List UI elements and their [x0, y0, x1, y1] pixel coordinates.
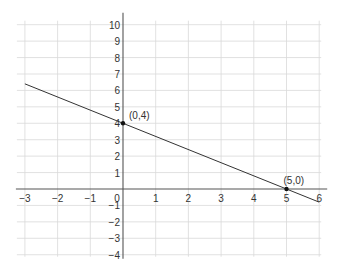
- grid-lines: [17, 21, 321, 257]
- x-tick-label: 2: [186, 193, 192, 204]
- y-tick-label: −3: [109, 233, 121, 244]
- labeled-points: (0,4)(5,0): [121, 110, 304, 191]
- y-tick-label: 2: [114, 151, 120, 162]
- x-tick-label: 6: [316, 193, 322, 204]
- coordinate-graph: −3−2−10123456−4−3−2−112345678910 (0,4)(5…: [0, 0, 344, 275]
- y-tick-label: 10: [109, 20, 121, 31]
- line-series: [25, 84, 319, 202]
- x-tick-label: 4: [251, 193, 257, 204]
- y-tick-label: −4: [109, 250, 121, 261]
- y-tick-label: 8: [114, 53, 120, 64]
- line-plot: [25, 84, 319, 202]
- x-tick-label: 1: [153, 193, 159, 204]
- x-tick-label: 3: [218, 193, 224, 204]
- x-tick-label: −2: [52, 193, 64, 204]
- x-tick-label: −1: [85, 193, 97, 204]
- y-tick-label: 3: [114, 135, 120, 146]
- point-marker: [284, 187, 288, 191]
- x-tick-label: 5: [284, 193, 290, 204]
- y-tick-label: −1: [109, 200, 121, 211]
- y-tick-label: 7: [114, 69, 120, 80]
- y-tick-label: 5: [114, 102, 120, 113]
- point-label: (0,4): [129, 110, 150, 121]
- point-label: (5,0): [284, 175, 305, 186]
- y-tick-label: 6: [114, 85, 120, 96]
- point-marker: [121, 121, 125, 125]
- x-tick-label: −3: [19, 193, 31, 204]
- tick-labels: −3−2−10123456−4−3−2−112345678910: [19, 20, 322, 261]
- y-tick-label: −2: [109, 217, 121, 228]
- y-tick-label: 9: [114, 36, 120, 47]
- y-tick-label: 1: [114, 168, 120, 179]
